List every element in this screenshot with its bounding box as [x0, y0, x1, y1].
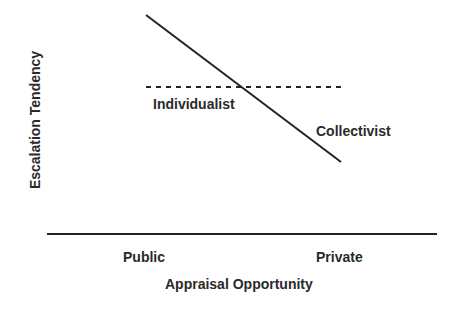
collectivist-line	[146, 15, 341, 162]
collectivist-label: Collectivist	[316, 123, 391, 139]
chart-canvas	[0, 0, 464, 311]
x-tick-public: Public	[123, 249, 165, 265]
x-tick-private: Private	[316, 249, 363, 265]
y-axis-label: Escalation Tendency	[27, 51, 43, 189]
x-axis-label: Appraisal Opportunity	[165, 276, 313, 292]
individualist-label: Individualist	[153, 96, 235, 112]
